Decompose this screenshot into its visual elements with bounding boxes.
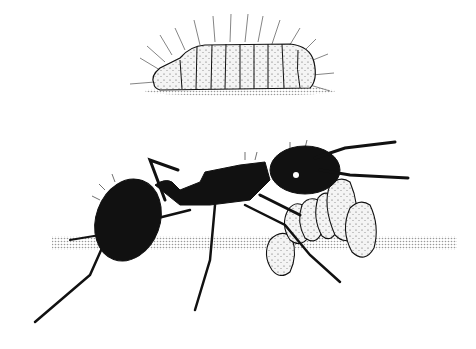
illustration-canvas — [0, 0, 476, 349]
larva-top — [130, 14, 335, 96]
ant-larvae-illustration — [0, 0, 476, 349]
larvae-cluster — [266, 179, 376, 275]
